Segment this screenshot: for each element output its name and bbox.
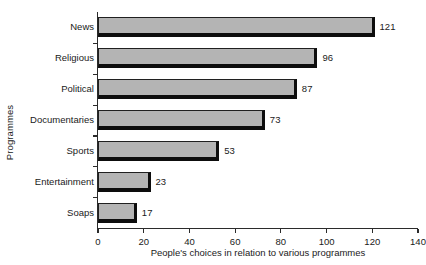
bar-sports: [98, 141, 219, 161]
x-axis-tick: [326, 229, 327, 234]
bar-row: 23: [98, 172, 418, 192]
x-axis-line: [97, 228, 418, 229]
bar-value-label: 73: [270, 114, 281, 125]
y-axis-tick: [93, 43, 98, 44]
y-axis-tick: [93, 135, 98, 136]
bar-documentaries: [98, 110, 265, 130]
x-axis-tick-label: 80: [276, 236, 287, 247]
category-label-news: News: [14, 21, 94, 32]
x-axis-tick: [97, 229, 98, 234]
bar-row: 73: [98, 110, 418, 130]
category-label-entertainment: Entertainment: [14, 176, 94, 187]
bar-value-label: 23: [156, 176, 167, 187]
x-axis-tick-label: 0: [95, 236, 100, 247]
bar-value-label: 17: [142, 207, 153, 218]
category-label-soaps: Soaps: [14, 207, 94, 218]
y-axis-tick: [93, 105, 98, 106]
y-axis-tick: [93, 74, 98, 75]
bar-row: 121: [98, 17, 418, 37]
bar-row: 17: [98, 203, 418, 223]
bar-value-label: 87: [302, 83, 313, 94]
x-axis-tick: [189, 229, 190, 234]
x-axis-tick: [143, 229, 144, 234]
bar-value-label: 53: [224, 145, 235, 156]
x-axis-tick-label: 100: [319, 236, 335, 247]
plot-area: 020406080100120140121968773532317: [98, 12, 418, 228]
x-axis-tick: [280, 229, 281, 234]
y-axis-tick: [93, 166, 98, 167]
bar-entertainment: [98, 172, 151, 192]
x-axis-tick: [235, 229, 236, 234]
category-label-religious: Religious: [14, 52, 94, 63]
x-axis-tick-label: 60: [230, 236, 241, 247]
y-axis-tick: [93, 197, 98, 198]
bar-value-label: 96: [322, 52, 333, 63]
x-axis-tick: [417, 229, 418, 234]
bar-row: 53: [98, 141, 418, 161]
bar-row: 96: [98, 48, 418, 68]
bar-political: [98, 79, 297, 99]
x-axis-tick-label: 20: [138, 236, 149, 247]
category-label-documentaries: Documentaries: [14, 114, 94, 125]
x-axis-tick-label: 140: [410, 236, 426, 247]
x-axis-title: People's choices in relation to various …: [98, 247, 418, 258]
category-label-sports: Sports: [14, 145, 94, 156]
bar-row: 87: [98, 79, 418, 99]
bar-value-label: 121: [380, 21, 396, 32]
bar-news: [98, 17, 375, 37]
category-axis-labels: NewsReligiousPoliticalDocumentariesSport…: [14, 12, 94, 228]
x-axis-tick-label: 120: [364, 236, 380, 247]
x-axis-tick: [372, 229, 373, 234]
category-label-political: Political: [14, 83, 94, 94]
x-axis-tick-label: 40: [184, 236, 195, 247]
bar-religious: [98, 48, 317, 68]
bar-soaps: [98, 203, 137, 223]
